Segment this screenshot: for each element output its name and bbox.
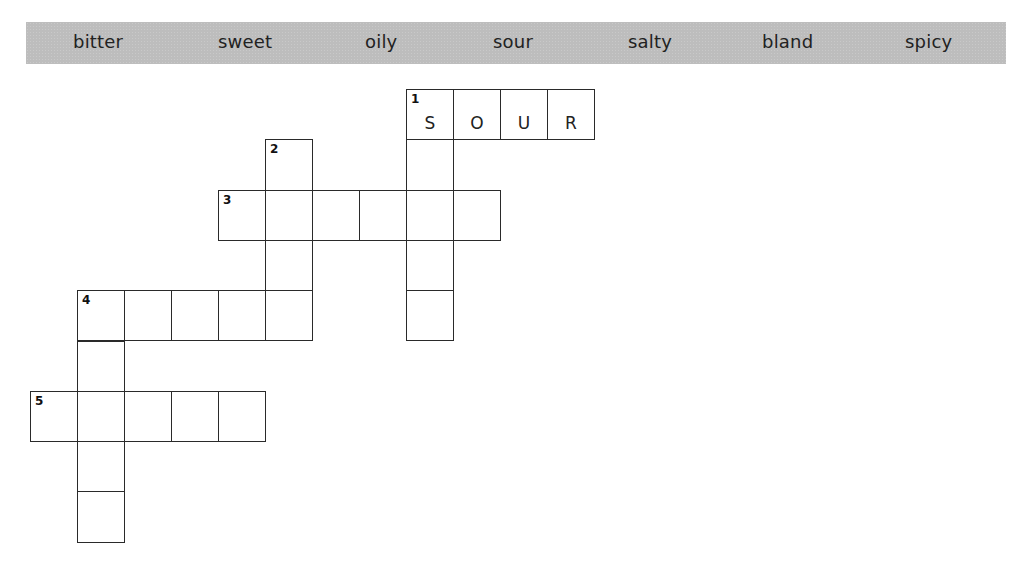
crossword-cell[interactable] [77, 391, 125, 442]
crossword-cell[interactable] [124, 290, 172, 341]
crossword-cell[interactable]: 4 [77, 290, 125, 341]
crossword-cell[interactable]: R [547, 89, 595, 140]
crossword-cell[interactable] [359, 190, 407, 241]
crossword-cell[interactable] [77, 341, 125, 392]
crossword-cell[interactable]: 1S [406, 89, 454, 140]
clue-number: 4 [82, 293, 90, 307]
crossword-cell[interactable] [77, 441, 125, 492]
crossword-cell[interactable] [218, 290, 266, 341]
crossword-grid: 1SOUR2345 [0, 0, 1032, 569]
cell-letter: R [548, 113, 594, 133]
cell-letter: U [501, 113, 547, 133]
crossword-cell[interactable] [77, 491, 125, 542]
crossword-cell[interactable] [265, 240, 313, 291]
crossword-cell[interactable] [406, 139, 454, 190]
crossword-cell[interactable]: 3 [218, 190, 266, 241]
crossword-cell[interactable] [406, 290, 454, 341]
cell-letter: O [454, 113, 500, 133]
crossword-cell[interactable] [312, 190, 360, 241]
crossword-cell[interactable] [218, 391, 266, 442]
crossword-cell[interactable]: 2 [265, 139, 313, 190]
crossword-cell[interactable] [406, 190, 454, 241]
crossword-cell[interactable] [124, 391, 172, 442]
clue-number: 5 [35, 394, 43, 408]
crossword-cell[interactable] [406, 240, 454, 291]
crossword-cell[interactable] [265, 190, 313, 241]
clue-number: 3 [223, 193, 231, 207]
crossword-cell[interactable]: 5 [30, 391, 78, 442]
clue-number: 2 [270, 142, 278, 156]
crossword-cell[interactable] [265, 290, 313, 341]
crossword-cell[interactable] [171, 290, 219, 341]
clue-number: 1 [411, 92, 419, 106]
crossword-cell[interactable] [453, 190, 501, 241]
crossword-cell[interactable] [171, 391, 219, 442]
cell-letter: S [407, 113, 453, 133]
crossword-cell[interactable]: O [453, 89, 501, 140]
crossword-cell[interactable]: U [500, 89, 548, 140]
